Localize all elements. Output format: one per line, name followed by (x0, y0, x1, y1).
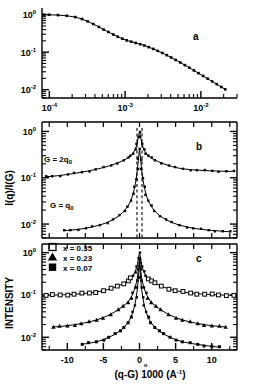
panel-b-y-ticklabels: 10010-110-2 (21, 126, 37, 230)
panel-label-c: c (196, 253, 202, 264)
panel-a-ticks (42, 15, 237, 98)
x-axis-label-panel-c: (q-G) 1000 (A-1) (115, 369, 186, 380)
y-ticklabel: 100 (23, 126, 37, 137)
y-axis-label-panel-c: INTENSITY (4, 277, 15, 330)
panel-c-xtick: 5 (173, 355, 178, 365)
curve-label-g-q0: G = q0 (50, 201, 74, 211)
legend-marker-filled-triangle (48, 253, 57, 261)
panel-c-xtick: -5 (99, 355, 107, 365)
y-ticklabel: 100 (23, 247, 37, 258)
y-ticklabel: 10-2 (21, 332, 37, 343)
multi-panel-scattering-figure: 10010-110-2 10-410-310-2 a 10010-110-2 b… (0, 0, 254, 384)
y-axis-label-panel-b: I(q)/I(G) (4, 170, 15, 206)
panel-a-ytick: 10-2 (21, 84, 37, 95)
angstrom-ring-overline: o (144, 362, 148, 368)
panel-b-frame (42, 122, 237, 238)
panel-b-curves (46, 131, 234, 231)
panel-a: 10010-110-2 10-410-310-2 a (21, 8, 237, 113)
panel-c-xtick: -10 (61, 355, 74, 365)
panel-a-xtick: 10-4 (42, 102, 58, 113)
panel-a-ytick: 100 (23, 9, 37, 20)
angstrom-symbol: A (170, 369, 177, 380)
y-ticklabel: 10-1 (21, 289, 37, 300)
panel-label-b: b (196, 141, 202, 152)
legend-label-1: x = 0.23 (63, 254, 93, 263)
panel-b-datapoints (45, 131, 235, 233)
panel-b: 10010-110-2 b G = 2q0 G = q0 I(q)/I(G) (4, 122, 237, 238)
y-ticklabel: 10-1 (21, 172, 37, 183)
panel-a-curve (44, 15, 225, 90)
curve-label-g-2q0: G = 2q0 (44, 155, 73, 165)
figure-container: 10010-110-2 10-410-310-2 a 10010-110-2 b… (0, 0, 254, 384)
panel-a-xtick: 10-3 (117, 102, 133, 113)
legend-marker-filled-square (49, 264, 56, 271)
panel-c-y-ticklabels: 10010-110-2 (21, 247, 37, 343)
panel-a-x-ticklabels: 10-410-310-2 (42, 102, 210, 113)
panel-a-xtick: 10-2 (193, 102, 209, 113)
panel-c-x-ticklabels: -10-50510 (61, 355, 217, 365)
legend: x = 0.35 x = 0.23 x = 0.07 (48, 244, 93, 273)
panel-c-xtick: 10 (207, 355, 217, 365)
panel-a-frame (42, 8, 237, 98)
y-ticklabel: 10-2 (21, 219, 37, 230)
legend-label-0: x = 0.35 (63, 244, 93, 253)
panel-a-y-ticklabels: 10010-110-2 (21, 9, 37, 95)
panel-c-xtick: 0 (137, 355, 142, 365)
panel-c: 10010-110-2 -10-50510 c INTENSITY x = 0.… (4, 244, 237, 381)
panel-a-datapoints (43, 13, 227, 90)
panel-b-ticks (42, 122, 237, 238)
panel-a-ytick: 10-1 (21, 47, 37, 58)
legend-label-2: x = 0.07 (63, 264, 93, 273)
panel-label-a: a (193, 31, 199, 42)
